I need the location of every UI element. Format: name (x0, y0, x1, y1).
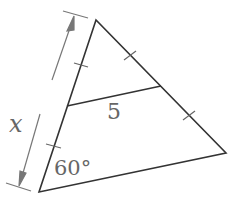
label-angle: 60° (54, 158, 91, 179)
arrowhead-down-icon (19, 171, 26, 186)
arrowhead-up-icon (67, 16, 74, 31)
label-midsegment-length: 5 (107, 101, 121, 123)
dimension-arrow-line-bottom (21, 114, 40, 180)
label-x: x (9, 112, 23, 136)
dimension-cap-top (63, 11, 88, 18)
dimension-cap-bottom (6, 183, 31, 191)
